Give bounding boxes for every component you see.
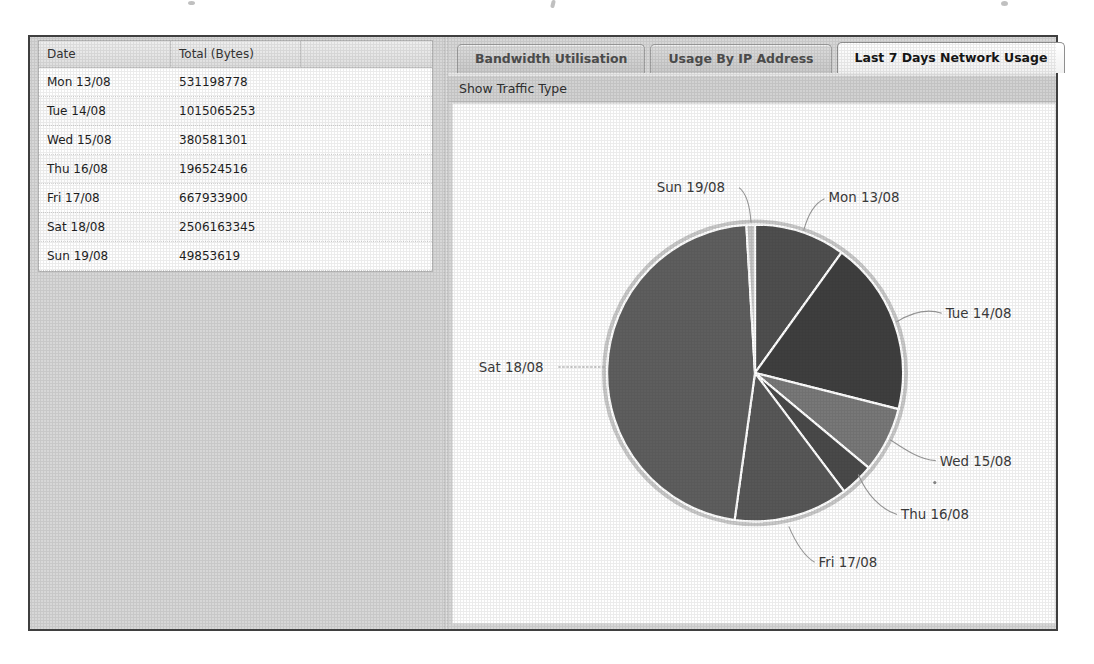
pie-label-tue-14-08: Tue 14/08 <box>945 306 1012 321</box>
total-bytes-cell: 2506163345 <box>171 213 301 241</box>
pie-label-sun-19-08: Sun 19/08 <box>657 180 725 195</box>
leader-line-mon <box>804 199 825 231</box>
date-cell: Wed 15/08 <box>39 126 171 154</box>
scan-artifact <box>188 1 195 5</box>
table-row[interactable]: Fri 17/08667933900 <box>39 184 432 213</box>
empty-cell <box>301 213 432 241</box>
pie-chart: Mon 13/08Tue 14/08Wed 15/08Thu 16/08Fri … <box>453 104 1055 623</box>
report-panel: Bandwidth Utilisation Usage By IP Addres… <box>448 37 1056 629</box>
leader-line-tue <box>896 311 942 322</box>
table-header-row: Date Total (Bytes) <box>39 41 432 68</box>
date-cell: Mon 13/08 <box>39 68 171 96</box>
scan-dot-artifact <box>933 481 936 484</box>
empty-cell <box>301 242 432 270</box>
total-bytes-cell: 667933900 <box>171 184 301 212</box>
pie-label-mon-13-08: Mon 13/08 <box>829 190 900 205</box>
total-bytes-cell: 380581301 <box>171 126 301 154</box>
show-traffic-type-bar: Show Traffic Type <box>448 76 1056 102</box>
total-bytes-cell: 531198778 <box>171 68 301 96</box>
table-row[interactable]: Sun 19/0849853619 <box>39 242 432 271</box>
date-cell: Sat 18/08 <box>39 213 171 241</box>
column-header-empty[interactable] <box>301 41 432 67</box>
date-cell: Fri 17/08 <box>39 184 171 212</box>
total-bytes-cell: 1015065253 <box>171 97 301 125</box>
usage-table: Date Total (Bytes) Mon 13/08531198778Tue… <box>38 40 433 272</box>
tab-usage-by-ip-address[interactable]: Usage By IP Address <box>650 44 831 73</box>
report-tabbar: Bandwidth Utilisation Usage By IP Addres… <box>448 37 1056 73</box>
pie-label-sat-18-08: Sat 18/08 <box>479 360 544 375</box>
date-cell: Thu 16/08 <box>39 155 171 183</box>
table-row[interactable]: Sat 18/082506163345 <box>39 213 432 242</box>
empty-cell <box>301 68 432 96</box>
empty-cell <box>301 126 432 154</box>
usage-table-panel: Date Total (Bytes) Mon 13/08531198778Tue… <box>30 37 445 629</box>
leader-line-sun <box>739 188 751 223</box>
date-cell: Tue 14/08 <box>39 97 171 125</box>
table-row[interactable]: Tue 14/081015065253 <box>39 97 432 126</box>
scan-artifact <box>1001 1 1008 6</box>
column-header-total-bytes[interactable]: Total (Bytes) <box>171 41 301 67</box>
empty-cell <box>301 184 432 212</box>
network-usage-window: Date Total (Bytes) Mon 13/08531198778Tue… <box>28 35 1058 631</box>
show-traffic-type-label[interactable]: Show Traffic Type <box>459 81 567 96</box>
tab-last-7-days-network-usage[interactable]: Last 7 Days Network Usage <box>837 42 1066 73</box>
leader-line-thu <box>858 475 897 515</box>
table-row[interactable]: Mon 13/08531198778 <box>39 68 432 97</box>
total-bytes-cell: 196524516 <box>171 155 301 183</box>
pie-chart-panel: Mon 13/08Tue 14/08Wed 15/08Thu 16/08Fri … <box>452 103 1056 624</box>
total-bytes-cell: 49853619 <box>171 242 301 270</box>
column-header-date[interactable]: Date <box>39 41 171 67</box>
empty-cell <box>301 155 432 183</box>
table-row[interactable]: Thu 16/08196524516 <box>39 155 432 184</box>
pie-label-wed-15-08: Wed 15/08 <box>940 454 1012 469</box>
leader-line-fri <box>789 526 815 562</box>
pie-label-fri-17-08: Fri 17/08 <box>819 555 878 570</box>
leader-line-wed <box>890 440 936 461</box>
table-body: Mon 13/08531198778Tue 14/081015065253Wed… <box>39 68 432 271</box>
pie-slice-sat-18-08[interactable] <box>607 225 755 520</box>
tab-bandwidth-utilisation[interactable]: Bandwidth Utilisation <box>457 44 645 73</box>
pie-label-thu-16-08: Thu 16/08 <box>900 507 969 522</box>
empty-cell <box>301 97 432 125</box>
table-row[interactable]: Wed 15/08380581301 <box>39 126 432 155</box>
scan-artifact <box>550 0 556 8</box>
date-cell: Sun 19/08 <box>39 242 171 270</box>
